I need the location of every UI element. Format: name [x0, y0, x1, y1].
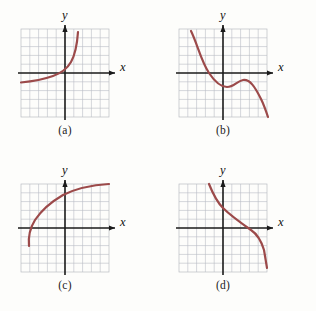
y-axis-arrow-d	[220, 180, 225, 187]
graph-svg-c	[21, 184, 109, 272]
x-axis-label-d: x	[278, 215, 284, 230]
x-axis-label-a: x	[120, 60, 126, 75]
caption-a: (a)	[0, 124, 130, 136]
y-axis-arrow-b	[220, 25, 225, 32]
x-axis-label-c: x	[120, 215, 126, 230]
x-axis-label-b: x	[278, 60, 284, 75]
plot-area-b	[179, 29, 267, 117]
plot-area-d	[179, 184, 267, 272]
panel-d: y x (d)	[158, 155, 316, 310]
x-axis-arrow-a	[109, 70, 115, 75]
y-axis-arrow-c	[62, 180, 67, 187]
x-axis-arrow-b	[267, 70, 273, 75]
figure-container: y x (a)	[0, 0, 316, 311]
caption-c: (c)	[0, 279, 130, 291]
graph-svg-b	[179, 29, 267, 117]
y-axis-label-c: y	[62, 163, 68, 178]
graph-svg-a	[21, 29, 109, 117]
y-axis-label-b: y	[220, 8, 226, 23]
caption-d: (d)	[158, 279, 288, 291]
graph-svg-d	[179, 184, 267, 272]
y-axis-arrow-a	[62, 25, 67, 32]
panel-a: y x (a)	[0, 0, 158, 155]
y-axis-label-a: y	[62, 8, 68, 23]
plot-area-c	[21, 184, 109, 272]
caption-b: (b)	[158, 124, 288, 136]
x-axis-arrow-c	[109, 225, 115, 230]
panel-c: y x (c)	[0, 155, 158, 310]
panel-b: y x (b)	[158, 0, 316, 155]
y-axis-label-d: y	[220, 163, 226, 178]
x-axis-arrow-d	[267, 225, 273, 230]
plot-area-a	[21, 29, 109, 117]
